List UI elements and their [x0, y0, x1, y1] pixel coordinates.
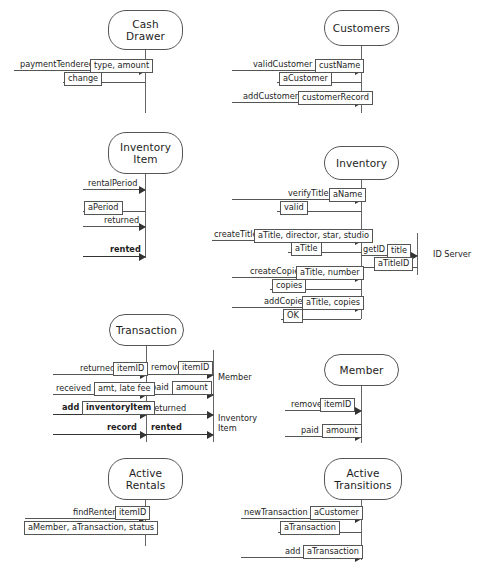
arrow-head-icon [139, 186, 146, 194]
message-rented-to-inventory-item [146, 434, 213, 435]
param-copies: copies [272, 279, 306, 293]
param-title: title [387, 244, 411, 258]
param-type-amount: type, amount [90, 59, 153, 73]
label-returned-to-inventory-item: returned [151, 404, 186, 413]
object-active-transitions[interactable]: Active Transitions [324, 458, 402, 500]
label-rented-to-inventory-item: rented [151, 423, 182, 432]
param-transaction-item-id: itemID [113, 362, 148, 376]
arrow-head-icon [139, 223, 146, 231]
label-find-renter: findRenter [73, 508, 116, 517]
param-member-item-id: itemID [320, 398, 355, 412]
param-remove-item-id: itemID [178, 361, 213, 375]
label-verify-title: verifyTitle [288, 189, 329, 198]
param-amt-late-fee: amt, late fee [94, 382, 155, 396]
label-rental-period: rentalPeriod [88, 179, 137, 188]
arrow-head-icon [207, 431, 214, 439]
param-renter-result: aMember, aTransaction, status [24, 521, 158, 535]
caption-member-target: Member [218, 373, 252, 383]
object-member[interactable]: Member [324, 354, 399, 386]
arrow-head-icon [207, 411, 214, 419]
object-cash-drawer[interactable]: Cash Drawer [108, 10, 183, 50]
param-a-title-id: aTitleID [374, 257, 413, 271]
param-create-title: aTitle, director, star, studio [254, 229, 373, 243]
param-a-title: aTitle [291, 242, 322, 256]
param-inventory-item: inventoryItem [82, 401, 155, 415]
arrow-head-icon [355, 407, 362, 415]
object-active-rentals[interactable]: Active Rentals [108, 458, 183, 500]
caption-inventory-item-target: Inventory Item [218, 414, 257, 433]
label-add-transaction: add [285, 547, 300, 556]
param-customer-record: customerRecord [298, 91, 373, 105]
message-returned-to-inventory-item [146, 414, 213, 415]
label-rented-inventory-item: rented [110, 245, 141, 254]
label-transaction-record: record [107, 423, 137, 432]
object-inventory[interactable]: Inventory [324, 146, 399, 180]
param-add-copies: aTitle, copies [302, 296, 364, 310]
label-payment-tendered: paymentTendered [20, 60, 94, 69]
param-member-amount: amount [322, 424, 362, 438]
object-transaction[interactable]: Transaction [109, 314, 184, 346]
param-a-customer: aCustomer [279, 72, 332, 86]
param-a-transaction-return: aTransaction [280, 521, 340, 535]
label-transaction-received: received [56, 384, 91, 393]
label-returned-inventory-item: returned [104, 216, 139, 225]
label-valid-customer: validCustomer [253, 60, 312, 69]
param-a-name: aName [329, 188, 366, 202]
param-a-period: aPeriod [84, 201, 123, 215]
label-new-transaction: newTransaction [244, 508, 308, 517]
message-returned-inventory-item [83, 226, 145, 227]
label-add-customer: addCustomer [243, 92, 298, 101]
label-add-copies: addCopies [264, 297, 307, 306]
message-transaction-record [53, 434, 146, 435]
label-member-remove: remove [291, 400, 322, 409]
message-rented-inventory-item [83, 256, 145, 257]
label-transaction-returned: returned [80, 364, 115, 373]
param-find-renter-item-id: itemID [115, 506, 150, 520]
arrow-head-icon [139, 253, 146, 261]
param-change: change [64, 72, 102, 86]
param-add-a-transaction: aTransaction [303, 545, 363, 559]
param-cust-name: custName [315, 59, 364, 73]
label-member-paid: paid [301, 426, 319, 435]
param-paid-amount: amount [172, 381, 212, 395]
label-transaction-add: add [62, 403, 79, 412]
diagram-canvas: Cash Drawer paymentTendered type, amount… [0, 0, 480, 567]
message-rental-period [83, 189, 145, 190]
param-valid: valid [280, 201, 308, 215]
label-create-title: createTitle [214, 230, 258, 239]
object-customers[interactable]: Customers [324, 10, 399, 46]
param-ok: OK [283, 309, 303, 323]
caption-id-server: ID Server [433, 250, 471, 260]
param-new-transaction-customer: aCustomer [310, 506, 363, 520]
param-create-copies: aTitle, number [296, 266, 364, 280]
label-get-id: getID [363, 245, 385, 254]
object-inventory-item[interactable]: Inventory Item [108, 132, 183, 174]
